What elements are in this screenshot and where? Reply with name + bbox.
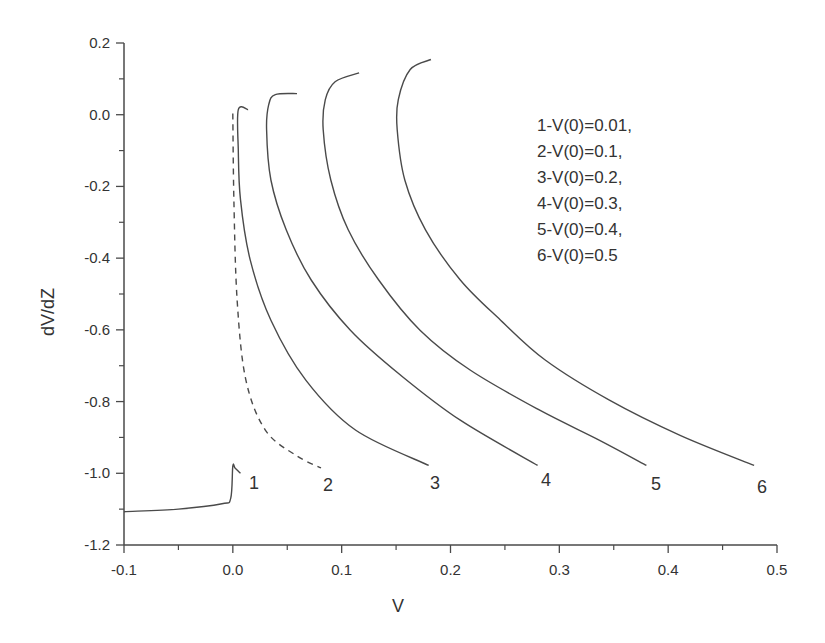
axes — [124, 43, 777, 545]
curve-label-1: 1 — [249, 473, 259, 493]
y-tick-label: -0.6 — [84, 321, 110, 338]
x-tick-label: -0.1 — [111, 561, 137, 578]
chart-canvas: -0.10.00.10.20.30.40.5 0.20.0-0.2-0.4-0.… — [0, 0, 825, 643]
curve-label-4: 4 — [541, 470, 551, 490]
curve-label-5: 5 — [651, 474, 661, 494]
x-axis-ticks: -0.10.00.10.20.30.40.5 — [111, 545, 787, 578]
x-tick-label: 0.0 — [222, 561, 243, 578]
curve-2 — [233, 114, 321, 468]
x-axis-title: V — [392, 596, 404, 616]
legend-entry: 3-V(0)=0.2, — [537, 168, 623, 187]
y-tick-label: -1.0 — [84, 464, 110, 481]
legend-entry: 6-V(0)=0.5 — [537, 246, 618, 265]
legend-entry: 1-V(0)=0.01, — [537, 116, 632, 135]
y-tick-label: -1.2 — [84, 536, 110, 553]
x-tick-label: 0.2 — [440, 561, 461, 578]
curve-4 — [267, 93, 538, 465]
curve-label-6: 6 — [757, 477, 767, 497]
y-tick-label: -0.2 — [84, 177, 110, 194]
curve-3 — [237, 107, 428, 466]
y-axis-ticks: 0.20.0-0.2-0.4-0.6-0.8-1.0-1.2 — [84, 34, 124, 553]
plot-curves — [124, 60, 754, 512]
x-tick-label: 0.5 — [767, 561, 788, 578]
curve-label-3: 3 — [430, 473, 440, 493]
legend: 1-V(0)=0.01,2-V(0)=0.1,3-V(0)=0.2,4-V(0)… — [537, 116, 632, 265]
y-tick-label: 0.2 — [89, 34, 110, 51]
legend-entry: 4-V(0)=0.3, — [537, 194, 623, 213]
y-tick-label: -0.8 — [84, 393, 110, 410]
curve-1 — [124, 464, 241, 512]
curve-label-2: 2 — [323, 475, 333, 495]
curve-labels: 123456 — [249, 470, 767, 497]
y-tick-label: 0.0 — [89, 106, 110, 123]
y-axis-title: dV/dZ — [38, 288, 58, 336]
legend-entry: 5-V(0)=0.4, — [537, 220, 623, 239]
legend-entry: 2-V(0)=0.1, — [537, 142, 623, 161]
x-tick-label: 0.4 — [658, 561, 679, 578]
y-tick-label: -0.4 — [84, 249, 110, 266]
x-tick-label: 0.1 — [331, 561, 352, 578]
x-tick-label: 0.3 — [549, 561, 570, 578]
